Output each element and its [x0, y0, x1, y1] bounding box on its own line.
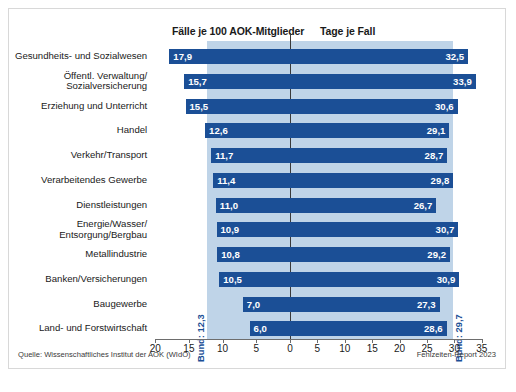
source-note: Quelle: Wissenschaftliches Institut der …: [18, 350, 191, 359]
bar-days: 30,6: [290, 99, 458, 114]
bar-days: 30,9: [290, 272, 459, 287]
bar-row: Land- und Forstwirtschaft6,028,6: [9, 321, 505, 336]
bar-row: Öffentl. Verwaltung/ Sozialversicherung1…: [9, 74, 505, 89]
category-label: Metallindustrie: [9, 249, 147, 260]
chart-figure: Fälle je 100 AOK-Mitglieder Tage je Fall…: [8, 8, 506, 369]
category-label: Energie/Wasser/ Entsorgung/Bergbau: [9, 219, 147, 240]
bar-cases: 10,9: [217, 222, 290, 237]
plot-area: Gesundheits- und Sozialwesen17,932,5Öffe…: [9, 41, 505, 339]
bar-row: Verkehr/Transport11,728,7: [9, 148, 505, 163]
bar-days: 29,1: [290, 123, 449, 138]
bar-value-days: 26,7: [414, 198, 433, 213]
bar-days: 27,3: [290, 297, 440, 312]
bar-value-cases: 10,5: [223, 272, 242, 287]
bar-value-cases: 10,8: [221, 247, 240, 262]
bar-row: Energie/Wasser/ Entsorgung/Bergbau10,930…: [9, 222, 505, 237]
bar-row: Gesundheits- und Sozialwesen17,932,5: [9, 49, 505, 64]
bar-days: 29,2: [290, 247, 450, 262]
bar-value-days: 33,9: [453, 74, 472, 89]
bar-cases: 12,6: [205, 123, 290, 138]
bar-value-cases: 7,0: [247, 297, 260, 312]
bar-value-cases: 6,0: [254, 321, 267, 336]
legend-label-cases: Fälle je 100 AOK-Mitglieder: [172, 25, 304, 37]
bar-days: 28,7: [290, 148, 447, 163]
category-label: Öffentl. Verwaltung/ Sozialversicherung: [9, 71, 147, 92]
bar-row: Baugewerbe7,027,3: [9, 297, 505, 312]
bar-value-cases: 15,5: [190, 99, 209, 114]
bar-days: 30,7: [290, 222, 458, 237]
bar-value-days: 30,6: [435, 99, 454, 114]
bar-value-days: 29,1: [427, 123, 446, 138]
bar-row: Dienstleistungen11,026,7: [9, 198, 505, 213]
bar-days: 29,8: [290, 173, 453, 188]
bar-cases: 11,7: [211, 148, 290, 163]
category-label: Baugewerbe: [9, 299, 147, 310]
bar-value-days: 28,7: [425, 148, 444, 163]
bar-value-days: 29,8: [431, 173, 450, 188]
bar-row: Verarbeitendes Gewerbe11,429,8: [9, 173, 505, 188]
bar-row: Handel12,629,1: [9, 123, 505, 138]
bar-value-days: 30,9: [437, 272, 456, 287]
bar-cases: 10,8: [217, 247, 290, 262]
bar-row: Banken/Versicherungen10,530,9: [9, 272, 505, 287]
bar-value-days: 30,7: [436, 222, 455, 237]
bar-days: 33,9: [290, 74, 476, 89]
bar-value-cases: 17,9: [173, 49, 192, 64]
bar-row: Metallindustrie10,829,2: [9, 247, 505, 262]
bar-days: 26,7: [290, 198, 436, 213]
category-label: Erziehung und Unterricht: [9, 101, 147, 112]
bar-cases: 15,7: [184, 74, 290, 89]
category-label: Banken/Versicherungen: [9, 274, 147, 285]
category-label: Verkehr/Transport: [9, 150, 147, 161]
category-label: Gesundheits- und Sozialwesen: [9, 51, 147, 62]
bar-cases: 11,4: [213, 173, 290, 188]
bar-cases: 10,5: [219, 272, 290, 287]
report-note: Fehlzeiten-Report 2023: [417, 350, 496, 359]
category-label: Handel: [9, 125, 147, 136]
bar-value-cases: 11,4: [217, 173, 235, 188]
bar-value-cases: 10,9: [221, 222, 240, 237]
bar-value-days: 28,6: [424, 321, 443, 336]
bar-cases: 15,5: [186, 99, 290, 114]
category-label: Land- und Forstwirtschaft: [9, 323, 147, 334]
category-label: Verarbeitendes Gewerbe: [9, 175, 147, 186]
legend-label-days: Tage je Fall: [320, 25, 375, 37]
bar-value-days: 32,5: [445, 49, 464, 64]
bar-days: 28,6: [290, 321, 447, 336]
bar-cases: 11,0: [216, 198, 290, 213]
bar-cases: 7,0: [243, 297, 290, 312]
bar-row: Erziehung und Unterricht15,530,6: [9, 99, 505, 114]
bar-cases: 6,0: [250, 321, 290, 336]
bar-value-days: 29,2: [427, 247, 446, 262]
bar-cases: 17,9: [169, 49, 290, 64]
bar-value-days: 27,3: [417, 297, 436, 312]
chart-footer: Quelle: Wissenschaftliches Institut der …: [9, 347, 505, 367]
bar-value-cases: 11,0: [220, 198, 238, 213]
bar-days: 32,5: [290, 49, 468, 64]
category-label: Dienstleistungen: [9, 200, 147, 211]
bar-value-cases: 12,6: [209, 123, 228, 138]
bar-value-cases: 11,7: [215, 148, 233, 163]
axis-line: [155, 339, 482, 340]
bar-value-cases: 15,7: [188, 74, 207, 89]
